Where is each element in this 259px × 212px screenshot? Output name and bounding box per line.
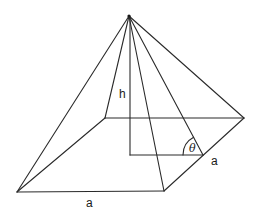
base-edge-front [17,191,164,192]
lateral-edge-front-left [17,16,129,192]
angle-label: θ [189,142,196,155]
pyramid-diagram: h θ a a [0,0,259,212]
apex-point [127,14,130,17]
base-edge-left [17,118,105,192]
front-side-label: a [86,196,93,210]
slant-height-line [129,16,203,155]
height-label: h [119,87,126,101]
lateral-edge-back-left [105,16,129,118]
right-side-label: a [211,154,218,168]
